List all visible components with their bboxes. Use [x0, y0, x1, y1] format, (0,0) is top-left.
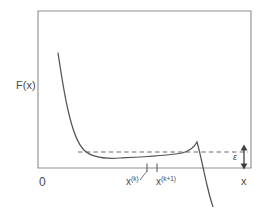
plot-frame — [38, 11, 251, 168]
y-axis-label: F(x) — [16, 80, 36, 91]
iterate-k-plus-1-superscript: (k+1) — [161, 175, 176, 182]
iterate-k-label: x(k) — [126, 177, 139, 187]
axes-box — [38, 11, 251, 168]
iterate-k-plus-1-label: x(k+1) — [156, 177, 176, 187]
origin-label: 0 — [39, 176, 46, 188]
figure-container: F(x) 0 x x(k) x(k+1) ε — [0, 0, 270, 207]
epsilon-label: ε — [233, 153, 237, 162]
x-axis-label: x — [241, 176, 247, 187]
leader-line-x-k — [140, 171, 147, 180]
iterate-k-superscript: (k) — [131, 175, 139, 182]
